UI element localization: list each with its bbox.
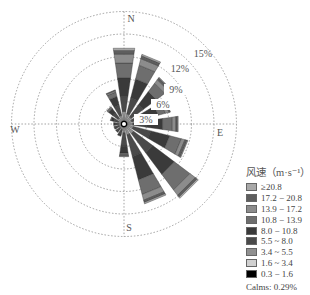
- legend-item: 17.2 − 20.8: [246, 193, 310, 204]
- svg-text:N: N: [127, 13, 134, 24]
- legend-item: 10.8 − 13.9: [246, 214, 310, 225]
- svg-text:3%: 3%: [139, 114, 152, 125]
- legend-swatch: [246, 216, 257, 224]
- legend-label: 13.9 − 17.2: [261, 204, 302, 214]
- svg-text:E: E: [217, 127, 223, 138]
- legend-item: 5.5 ~ 8.0: [246, 236, 310, 247]
- legend-swatch: [246, 237, 257, 245]
- svg-text:S: S: [126, 222, 132, 233]
- legend-swatch: [246, 248, 257, 256]
- legend-item: 8.0 − 10.8: [246, 225, 310, 236]
- calms-label: Calms: 0.29%: [246, 282, 310, 292]
- legend-label: 1.6 ~ 3.4: [261, 258, 293, 268]
- legend: 风速（m·s⁻¹） ≥20.8 17.2 − 20.8 13.9 − 17.2 …: [246, 164, 310, 292]
- legend-item: 3.4 ~ 5.5: [246, 247, 310, 258]
- legend-label: 3.4 ~ 5.5: [261, 247, 293, 257]
- legend-swatch: [246, 227, 257, 235]
- legend-label: 10.8 − 13.9: [261, 215, 302, 225]
- svg-text:W: W: [10, 124, 20, 135]
- legend-title: 风速（m·s⁻¹）: [246, 164, 310, 179]
- legend-swatch: [246, 259, 257, 267]
- legend-item: 1.6 ~ 3.4: [246, 258, 310, 269]
- legend-label: 8.0 − 10.8: [261, 226, 298, 236]
- legend-swatch: [246, 270, 257, 278]
- legend-swatch: [246, 205, 257, 213]
- legend-label: 0.3 − 1.6: [261, 269, 293, 279]
- svg-text:9%: 9%: [169, 84, 182, 95]
- legend-items: ≥20.8 17.2 − 20.8 13.9 − 17.2 10.8 − 13.…: [246, 182, 310, 279]
- svg-text:15%: 15%: [194, 48, 212, 59]
- legend-label: 5.5 ~ 8.0: [261, 236, 293, 246]
- svg-text:12%: 12%: [171, 63, 189, 74]
- legend-swatch: [246, 183, 257, 191]
- svg-text:6%: 6%: [156, 99, 169, 110]
- legend-label: 17.2 − 20.8: [261, 193, 302, 203]
- wind-rose-chart: 3%6%9%12%15%NESW: [0, 0, 245, 295]
- legend-item: 0.3 − 1.6: [246, 268, 310, 279]
- legend-item: ≥20.8: [246, 182, 310, 193]
- legend-item: 13.9 − 17.2: [246, 204, 310, 215]
- legend-swatch: [246, 194, 257, 202]
- legend-label: ≥20.8: [261, 182, 282, 192]
